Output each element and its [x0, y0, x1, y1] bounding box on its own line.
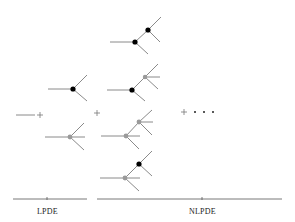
plus-operator-icon — [37, 109, 187, 118]
nlpde-label: NLPDE — [189, 207, 216, 216]
lpde-gray-node-tree — [45, 123, 85, 150]
ellipsis-icon — [194, 111, 214, 113]
nlpde-tree-gray-gray — [101, 110, 153, 149]
nlpde-tree-black-gray — [107, 64, 160, 101]
group-axes — [13, 197, 282, 200]
nlpde-tree-gray-black — [100, 151, 152, 191]
nlpde-tree-black-black — [110, 17, 161, 54]
tree-expansion-diagram — [0, 0, 295, 222]
lpde-black-node-tree — [48, 75, 87, 101]
lpde-label: LPDE — [37, 207, 58, 216]
